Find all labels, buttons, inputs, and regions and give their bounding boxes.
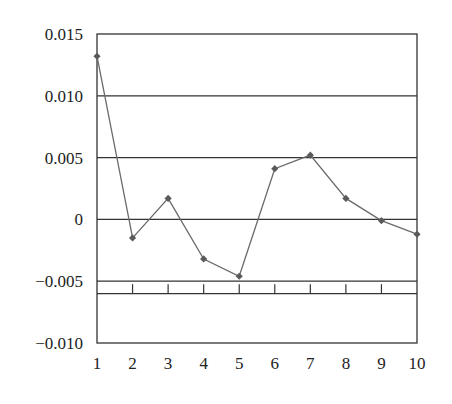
x-tick-label: 1 [93, 354, 102, 373]
y-axis-labels: 0.0150.0100.0050−0.005−0.010 [35, 25, 83, 353]
data-point-marker [413, 231, 420, 238]
x-axis-ticks [133, 284, 382, 293]
x-tick-label: 9 [377, 354, 386, 373]
x-tick-label: 5 [235, 354, 244, 373]
y-tick-label: 0.015 [45, 25, 83, 44]
x-tick-label: 4 [199, 354, 208, 373]
line-chart: 0.0150.0100.0050−0.005−0.010 12345678910 [0, 0, 452, 404]
data-point-marker [378, 217, 385, 224]
x-tick-label: 8 [342, 354, 351, 373]
data-line [97, 56, 417, 276]
x-tick-label: 10 [409, 354, 426, 373]
x-tick-label: 6 [271, 354, 280, 373]
data-point-marker [200, 255, 207, 262]
data-point-marker [271, 165, 278, 172]
y-tick-label: −0.010 [35, 334, 83, 353]
x-tick-label: 2 [128, 354, 137, 373]
x-axis-labels: 12345678910 [93, 354, 426, 373]
data-point-marker [93, 53, 100, 60]
data-point-marker [236, 273, 243, 280]
gridlines [97, 96, 417, 294]
y-tick-label: 0 [75, 210, 84, 229]
y-tick-label: −0.005 [35, 272, 83, 291]
x-tick-label: 3 [164, 354, 173, 373]
data-markers [93, 53, 420, 280]
plot-frame [97, 34, 417, 343]
y-tick-label: 0.010 [45, 87, 83, 106]
x-tick-label: 7 [306, 354, 315, 373]
y-tick-label: 0.005 [45, 149, 83, 168]
